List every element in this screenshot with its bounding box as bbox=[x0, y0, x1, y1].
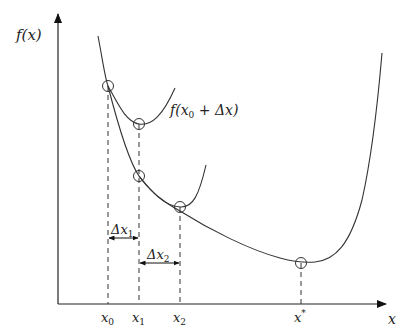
tick-x-star: x* bbox=[294, 308, 306, 325]
x-axis-label: x bbox=[388, 311, 396, 327]
tick-x2: x2 bbox=[173, 310, 186, 327]
delta-x1-label: Δx1 bbox=[110, 222, 133, 239]
tick-x1: x1 bbox=[132, 310, 145, 327]
gradient-descent-diagram: f(x) x f(x0 + Δx) x0 x1 x2 x* Δx1 Δx2 bbox=[0, 0, 404, 336]
local-model-x1 bbox=[139, 165, 206, 207]
delta-x2-label: Δx2 bbox=[146, 247, 169, 264]
local-model-x0 bbox=[108, 86, 175, 124]
objective-curve bbox=[98, 36, 382, 262]
curve-label: f(x0 + Δx) bbox=[169, 102, 238, 120]
y-axis-label: f(x) bbox=[15, 26, 42, 44]
tick-x0: x0 bbox=[101, 310, 114, 327]
